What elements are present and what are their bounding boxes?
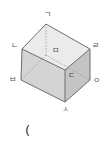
vertex-label-r: ㄹ <box>92 42 99 50</box>
vertex-label-n: ㄴ <box>11 42 18 50</box>
vertex-label-o: ㅇ <box>93 77 100 85</box>
rectangular-prism-figure: ㄱ ㄴ ㄹ ㅁ ㄷ ㅂ ㅇ ㅅ <box>0 0 110 144</box>
prism-drawing <box>0 0 110 144</box>
vertex-label-g: ㄱ <box>44 11 51 19</box>
vertex-label-b: ㅂ <box>9 76 16 84</box>
vertex-label-s: ㅅ <box>62 106 69 114</box>
vertex-label-d: ㄷ <box>68 72 75 80</box>
vertex-label-m: ㅁ <box>52 47 59 55</box>
answer-blank-paren: ( <box>25 124 30 137</box>
